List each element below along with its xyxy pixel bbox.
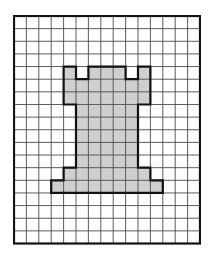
filled-cell xyxy=(113,92,125,105)
filled-cell xyxy=(138,180,150,193)
filled-cell xyxy=(88,67,100,80)
filled-cell xyxy=(88,155,100,168)
filled-cell xyxy=(88,117,100,130)
filled-cell xyxy=(138,168,150,181)
filled-cell xyxy=(64,168,76,181)
filled-cell xyxy=(113,142,125,155)
filled-cell xyxy=(88,168,100,181)
filled-cell xyxy=(126,92,138,105)
filled-cell xyxy=(88,104,100,117)
filled-cell xyxy=(101,155,113,168)
filled-cell xyxy=(101,117,113,130)
filled-cell xyxy=(138,79,150,92)
filled-cell xyxy=(88,79,100,92)
filled-cell xyxy=(138,67,150,80)
filled-cell xyxy=(113,155,125,168)
rook-grid-diagram xyxy=(13,15,201,245)
filled-cell xyxy=(76,155,88,168)
filled-cell xyxy=(150,180,162,193)
filled-cell xyxy=(101,79,113,92)
filled-cell xyxy=(88,92,100,105)
filled-cell xyxy=(76,130,88,143)
filled-cell xyxy=(101,67,113,80)
filled-cell xyxy=(126,117,138,130)
filled-cell xyxy=(126,79,138,92)
filled-cell xyxy=(64,180,76,193)
filled-cell xyxy=(126,180,138,193)
filled-cell xyxy=(101,142,113,155)
filled-cell xyxy=(64,79,76,92)
filled-cell xyxy=(88,130,100,143)
filled-cell xyxy=(138,92,150,105)
filled-cell xyxy=(101,92,113,105)
filled-cell xyxy=(113,168,125,181)
grid-canvas xyxy=(13,15,201,245)
filled-cell xyxy=(76,168,88,181)
filled-cell xyxy=(113,67,125,80)
filled-cell xyxy=(76,92,88,105)
filled-cell xyxy=(101,180,113,193)
filled-cell xyxy=(113,180,125,193)
filled-cell xyxy=(76,180,88,193)
filled-cell xyxy=(113,104,125,117)
filled-cell xyxy=(101,104,113,117)
filled-cell xyxy=(126,130,138,143)
filled-cell xyxy=(76,117,88,130)
filled-cell xyxy=(51,180,63,193)
filled-cell xyxy=(76,104,88,117)
filled-cell xyxy=(113,79,125,92)
filled-cell xyxy=(88,180,100,193)
filled-cell xyxy=(88,142,100,155)
grid-lines xyxy=(14,16,200,244)
filled-cell xyxy=(76,142,88,155)
filled-cell xyxy=(126,104,138,117)
filled-cell xyxy=(76,79,88,92)
filled-cell xyxy=(64,67,76,80)
filled-cell xyxy=(64,92,76,105)
filled-cell xyxy=(126,155,138,168)
filled-cell xyxy=(113,130,125,143)
filled-cell xyxy=(101,130,113,143)
filled-cell xyxy=(101,168,113,181)
filled-cell xyxy=(113,117,125,130)
filled-cell xyxy=(126,142,138,155)
filled-cell xyxy=(126,168,138,181)
